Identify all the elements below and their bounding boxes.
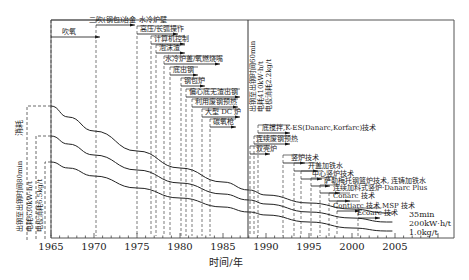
tech-label: 开盖加铁水 <box>308 161 343 170</box>
tick-label: 1995 <box>296 241 321 252</box>
mid-power-label: 电耗410kW·h/t <box>256 61 265 112</box>
tech-label: 碳氧枪 <box>213 117 234 126</box>
tech-label: Conarc 技术 <box>333 191 375 200</box>
tech-label: 高压/长弧操作 <box>140 24 184 33</box>
tick-label: 1985 <box>210 241 235 252</box>
tick-label: 1975 <box>124 241 149 252</box>
left-power-label: 电耗630kW·h/t <box>25 181 34 232</box>
tick-label: 1965 <box>38 241 63 252</box>
tech-label: 泡沫渣 <box>159 43 180 52</box>
tech-label: 底搅拌,K-ES(Danarc,Korfarc)技术 <box>262 123 376 132</box>
mid-electrode-label: 电极消耗2.2kg/t <box>264 59 273 112</box>
x-axis-labels: 1965 1970 1975 1980 1985 1990 1995 2000 … <box>38 241 407 252</box>
technology-annotations: 吹氧二吹(钢包)冶金 水冷炉壁高压/长弧操作计算机控制泡沫渣水冷炉盖/氧燃烧嘴底… <box>51 15 428 236</box>
tech-label: 底出钢 <box>173 65 194 74</box>
tick-label: 1970 <box>81 241 106 252</box>
x-axis-ticks <box>51 233 438 238</box>
consumption-label: 消耗 <box>14 120 24 136</box>
tech-label: 吹氧 <box>62 27 76 36</box>
tick-label: 1980 <box>167 241 192 252</box>
tick-label: 1990 <box>253 241 278 252</box>
left-electrode-label: 电极消耗6.5kg/t <box>35 179 44 232</box>
tech-label: Ecoarc 技术 <box>357 208 398 217</box>
tech-label: 连续加料式竖炉·Danarc Plus <box>333 183 428 192</box>
x-axis-title: 时间/年 <box>209 256 242 268</box>
technology-consumption-chart: 1965 1970 1975 1980 1985 1990 1995 2000 … <box>0 0 469 280</box>
tech-label: 计算机控制 <box>154 34 189 43</box>
tech-label: 偏心底无渣出钢 <box>189 87 238 96</box>
tech-label: 钢包炉 <box>184 76 205 85</box>
mid-tap-time-label: 出钢至出钢时间60min <box>248 40 257 112</box>
right-tap-time-label: 35min <box>409 210 434 219</box>
tech-label: 利用废钢预热 <box>195 97 237 106</box>
tech-label: 连续废钢预热 <box>256 134 298 143</box>
tech-label: 水冷炉盖/氧燃烧嘴 <box>165 54 223 63</box>
tech-label: 竖炉技术 <box>291 153 319 162</box>
tick-label: 2000 <box>339 241 364 252</box>
right-electrode-label: 1.0kg/t <box>409 228 438 237</box>
left-tap-time-label: 出钢至出钢时间80min <box>15 160 24 232</box>
tick-label: 2005 <box>382 241 407 252</box>
tech-label: 大型 DC 炉 <box>205 107 241 116</box>
right-power-label: 200kW·h/t <box>409 219 452 228</box>
tech-label: 二吹(钢包)冶金 水冷炉壁 <box>89 15 167 24</box>
tech-label: 双壳炉 <box>256 144 277 153</box>
